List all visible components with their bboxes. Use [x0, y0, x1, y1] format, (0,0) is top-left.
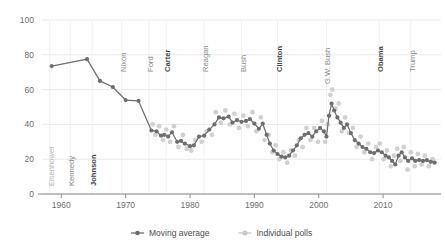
data-point-moving-average [372, 151, 376, 155]
data-point-moving-average [235, 118, 239, 122]
data-point-moving-average [345, 122, 349, 126]
data-point-individual-poll [199, 139, 204, 144]
data-point-moving-average [413, 159, 417, 163]
data-point-moving-average [98, 79, 102, 83]
x-axis [38, 194, 441, 198]
data-point-individual-poll [304, 125, 309, 130]
data-point-moving-average [257, 127, 261, 131]
data-point-moving-average [327, 114, 331, 118]
data-point-individual-poll [250, 110, 255, 115]
president-label: Johnson [89, 154, 98, 186]
y-axis-tick-label: 60 [25, 85, 35, 95]
x-axis-tick-labels: 196019701980199020002010 [52, 200, 393, 210]
chart-legend: Moving averageIndividual polls [131, 228, 312, 238]
data-point-individual-poll [168, 139, 173, 144]
y-axis-tick-label: 100 [20, 15, 34, 25]
data-point-moving-average [188, 144, 192, 148]
x-axis-tick-label: 1980 [181, 200, 200, 210]
data-point-individual-poll [157, 124, 162, 129]
president-label: Reagan [201, 45, 210, 72]
data-point-individual-poll [330, 87, 335, 92]
data-point-moving-average [227, 114, 231, 118]
data-point-moving-average [239, 120, 243, 124]
data-point-individual-poll [273, 143, 278, 148]
legend-dot-marker [242, 230, 247, 235]
data-point-moving-average [124, 98, 128, 102]
legend-label: Individual polls [256, 228, 312, 238]
data-point-moving-average [154, 129, 158, 133]
data-point-moving-average [390, 159, 394, 163]
data-point-individual-poll [281, 150, 286, 155]
data-point-individual-poll [189, 148, 194, 153]
president-label: Eisenhower [47, 146, 56, 186]
data-point-moving-average [302, 133, 306, 137]
data-point-individual-poll [343, 115, 348, 120]
data-point-individual-poll [213, 110, 218, 115]
data-point-moving-average [175, 140, 179, 144]
data-point-individual-poll [426, 164, 431, 169]
data-point-individual-poll [150, 122, 155, 127]
data-point-individual-poll [385, 148, 390, 153]
series-moving-average [50, 57, 437, 166]
data-point-moving-average [406, 159, 410, 163]
data-point-individual-poll [412, 164, 417, 169]
president-label: G.W. Bush [323, 48, 332, 84]
data-point-individual-poll [246, 124, 251, 129]
data-point-moving-average [335, 115, 339, 119]
x-axis-tick-label: 2000 [309, 200, 328, 210]
x-axis-tick-label: 1960 [52, 200, 71, 210]
data-point-moving-average [417, 158, 421, 162]
president-label: Bush [239, 55, 248, 72]
data-point-individual-poll [377, 141, 382, 146]
data-point-individual-poll [241, 113, 246, 118]
data-point-individual-poll [181, 132, 186, 137]
data-point-individual-poll [405, 167, 410, 172]
data-point-individual-poll [350, 125, 355, 130]
data-point-individual-poll [176, 145, 181, 150]
data-point-moving-average [287, 154, 291, 158]
data-point-moving-average [342, 126, 346, 130]
data-point-moving-average [202, 134, 206, 138]
data-point-moving-average [368, 150, 372, 154]
data-point-individual-poll [395, 146, 400, 151]
data-point-moving-average [349, 131, 353, 135]
data-point-individual-poll [320, 119, 325, 124]
president-label: Kennedy [67, 156, 76, 186]
data-point-moving-average [403, 155, 407, 159]
data-point-moving-average [364, 147, 368, 151]
data-point-moving-average [268, 141, 272, 145]
data-point-moving-average [248, 117, 252, 121]
y-axis-tick-label: 80 [25, 50, 35, 60]
data-point-moving-average [393, 162, 397, 166]
chart-canvas: 020406080100 EisenhowerKennedyJohnsonNix… [0, 0, 445, 250]
legend-dot-marker [135, 231, 140, 236]
data-point-moving-average [279, 154, 283, 158]
y-axis-tick-label: 20 [25, 154, 35, 164]
y-axis-tick-labels: 020406080100 [20, 15, 34, 199]
data-point-individual-poll [161, 138, 166, 143]
president-label: Obama [376, 45, 385, 72]
president-label: Trump [408, 50, 417, 72]
data-point-moving-average [217, 115, 221, 119]
data-point-individual-poll [415, 152, 420, 157]
president-label: Carter [163, 50, 172, 72]
trust-in-government-chart: 020406080100 EisenhowerKennedyJohnsonNix… [0, 0, 445, 250]
data-point-individual-poll [285, 160, 290, 165]
data-point-individual-poll [209, 132, 214, 137]
data-point-moving-average [166, 134, 170, 138]
data-point-moving-average [275, 152, 279, 156]
data-point-moving-average [400, 150, 404, 154]
x-axis-tick-label: 1970 [116, 200, 135, 210]
data-point-individual-poll [408, 150, 413, 155]
data-point-individual-poll [316, 139, 321, 144]
data-point-moving-average [170, 130, 174, 134]
data-point-moving-average [425, 158, 429, 162]
y-axis-tick-label: 40 [25, 119, 35, 129]
data-point-individual-poll [300, 145, 305, 150]
data-point-moving-average [261, 121, 265, 125]
data-point-moving-average [324, 134, 328, 138]
data-point-moving-average [387, 155, 391, 159]
data-point-moving-average [149, 128, 153, 132]
data-point-individual-poll [358, 134, 363, 139]
president-divider-lines [50, 20, 411, 194]
